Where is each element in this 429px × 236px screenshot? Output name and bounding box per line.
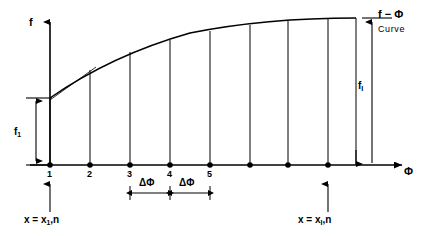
curve-label-line2: Curve <box>378 25 405 34</box>
delta-phi-dimension-2 <box>172 186 210 200</box>
fI-dimension <box>362 18 392 163</box>
ordinate-lines <box>50 18 356 165</box>
x-axis-label: Φ <box>404 166 413 177</box>
right-station-subscript: I <box>321 218 323 227</box>
delta-phi-dimension-1 <box>130 186 170 200</box>
node-number-2: 2 <box>87 170 92 179</box>
left-station-suffix: ,n <box>50 214 59 225</box>
node-number-5: 5 <box>207 170 212 179</box>
f-phi-curve <box>50 18 356 98</box>
right-station-suffix: ,n <box>323 214 332 225</box>
figure-container: f Φ f − Φ Curve f1 fI ΔΦ ΔΦ 1 2 3 4 5 x … <box>0 0 429 236</box>
left-station-annotation: x = x1,n <box>24 215 59 225</box>
left-station-subscript: 1 <box>47 219 51 226</box>
curve-label-line1: f − Φ <box>378 9 403 20</box>
f1-label: f1 <box>14 127 21 137</box>
right-station-prefix: x = x <box>298 214 321 225</box>
node-number-4: 4 <box>167 170 172 179</box>
delta-phi-label-2: ΔΦ <box>179 178 194 188</box>
fI-label: fI <box>358 81 363 91</box>
left-station-prefix: x = x <box>24 214 47 225</box>
delta-phi-label-1: ΔΦ <box>139 178 154 188</box>
node-number-1: 1 <box>47 170 52 179</box>
node-number-3: 3 <box>127 170 132 179</box>
f1-subscript: 1 <box>17 131 21 138</box>
y-axis-label: f <box>29 17 33 28</box>
right-station-annotation: x = xI,n <box>298 215 331 225</box>
f1-dimension <box>26 98 52 165</box>
diagram-canvas <box>0 0 429 236</box>
